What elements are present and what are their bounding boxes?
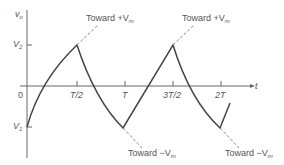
waveform-plot [0, 0, 284, 165]
tick-3t-half: 3T/2 [163, 91, 181, 100]
v2-label: V2 [13, 40, 22, 50]
origin-label: 0 [18, 91, 23, 100]
tick-t-half: T/2 [70, 91, 83, 100]
annotation-toward-plus-vm-2: Toward +Vm [182, 14, 230, 24]
v1-label: V1 [13, 122, 22, 132]
annotation-toward-minus-vm-1: Toward −Vm [128, 149, 176, 159]
waveform-diagram: vo t 0 V2 V1 T/2 T 3T/2 2T Toward +Vm To… [0, 0, 284, 165]
x-axis-label: t [255, 82, 258, 91]
annotation-toward-plus-vm-1: Toward +Vm [86, 14, 134, 24]
tick-t: T [122, 91, 128, 100]
annotation-toward-minus-vm-2: Toward −Vm [225, 149, 273, 159]
tick-2t: 2T [215, 91, 226, 100]
y-axis-label: vo [15, 10, 23, 20]
